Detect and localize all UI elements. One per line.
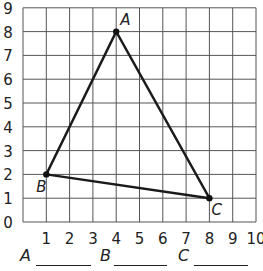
triangle-abc	[46, 32, 209, 199]
answer-label-a: A	[20, 246, 31, 265]
y-tick-label: 4	[3, 119, 13, 137]
answer-label-b: B	[100, 246, 111, 265]
y-tick-label: 1	[3, 190, 13, 208]
y-tick-label: 9	[3, 0, 13, 18]
point-c-label: C	[211, 201, 222, 219]
point-a-dot	[113, 28, 119, 34]
answer-blanks: A B C	[0, 244, 263, 271]
y-tick-label: 3	[3, 143, 13, 161]
y-tick-label: 5	[3, 95, 13, 113]
y-tick-label: 0	[3, 214, 13, 232]
y-tick-label: 7	[3, 47, 13, 65]
answer-field-c[interactable]	[194, 264, 248, 266]
answer-field-b[interactable]	[114, 264, 167, 266]
y-tick-label: 6	[3, 71, 13, 89]
point-b-dot	[43, 171, 49, 177]
y-tick-label: 2	[3, 166, 13, 184]
point-a-label: A	[119, 11, 130, 29]
answer-field-a[interactable]	[36, 264, 91, 266]
coordinate-grid: 123456789100123456789ABC	[0, 0, 263, 271]
answer-label-c: C	[178, 246, 189, 265]
y-tick-label: 8	[3, 24, 13, 42]
point-b-label: B	[36, 178, 46, 196]
